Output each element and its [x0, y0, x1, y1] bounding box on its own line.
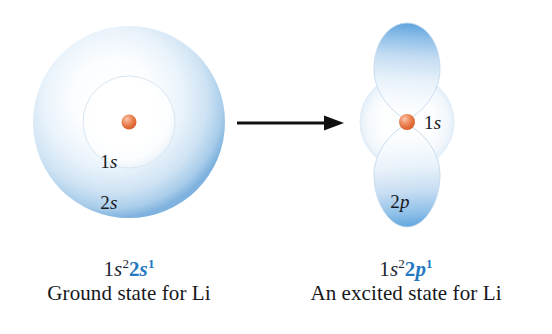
nucleus: [399, 114, 415, 130]
arrow-head: [324, 116, 344, 131]
orbital-comparison-figure: 1s 2s: [0, 0, 552, 334]
label-2s-orbital: s: [110, 192, 118, 213]
right-state-name: An excited state for Li: [310, 281, 501, 305]
config-2s1-left: 2s1: [129, 257, 155, 281]
orbital-label-1s-left: 1s: [100, 152, 117, 171]
left-electron-configuration: 1s22s1: [47, 258, 210, 280]
label-1s-orbital-right: s: [434, 112, 442, 133]
config-1s2-right: 1s2: [379, 257, 405, 281]
left-caption: 1s22s1 Ground state for Li: [47, 258, 210, 305]
ground-state-orbital: [22, 15, 237, 230]
label-1s-number: 1: [100, 151, 110, 172]
transition-arrow: [236, 110, 348, 136]
right-electron-configuration: 1s22p1: [310, 258, 501, 280]
label-2p-number: 2: [390, 191, 400, 212]
label-2s-number: 2: [100, 192, 110, 213]
config-2p1-right: 2p1: [405, 257, 433, 281]
label-2p-orbital: p: [400, 191, 410, 212]
orbital-label-1s-right: 1s: [424, 113, 441, 132]
right-caption: 1s22p1 An excited state for Li: [310, 258, 501, 305]
orbital-label-2p: 2p: [390, 192, 409, 211]
label-1s-number-right: 1: [424, 112, 434, 133]
nucleus: [122, 115, 137, 130]
config-1s2-left: 1s2: [103, 257, 129, 281]
orbital-label-2s-left: 2s: [100, 193, 117, 212]
left-state-name: Ground state for Li: [47, 281, 210, 305]
label-1s-orbital: s: [110, 151, 118, 172]
